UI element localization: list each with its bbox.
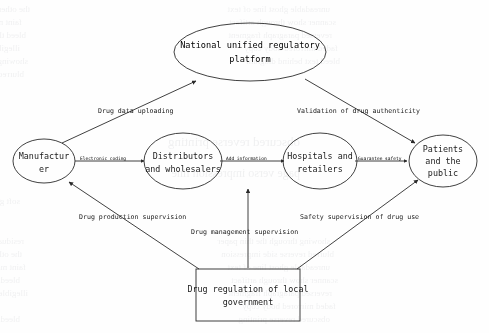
node-manufacturer[interactable]: Manufactur er: [13, 139, 75, 183]
node-national-platform[interactable]: National unified regulatory platform: [174, 23, 326, 81]
node-label-local-government-line2: government: [223, 297, 273, 307]
node-label-distributors-line1: Distributors: [153, 151, 214, 161]
edge-government-to-manufacturer: Drug production supervision: [69, 182, 199, 269]
edge-government-to-patients: Safety supervision of drug use: [297, 180, 419, 269]
edge-manufacturer-to-distributors: Electronic coding: [75, 156, 144, 161]
node-patients[interactable]: Patients and the public: [409, 135, 477, 187]
edge-label-add-information: Add information: [226, 156, 267, 161]
edge-government-to-distributors: Drug management supervision: [191, 189, 298, 268]
node-label-manufacturer-line1: Manufactur: [19, 151, 69, 161]
edge-distributors-to-hospitals: Add information: [220, 156, 284, 161]
node-label-distributors-line2: and wholesalers: [145, 164, 221, 174]
node-label-national-platform-line2: platform: [229, 54, 270, 64]
node-label-patients-line3: public: [428, 168, 458, 178]
flow-diagram: Drug data uploading Validation of drug a…: [0, 0, 489, 333]
node-label-local-government-line1: Drug regulation of local: [187, 284, 308, 294]
node-label-hospitals-line1: Hospitals and: [287, 151, 353, 161]
node-label-national-platform-line1: National unified regulatory: [180, 40, 320, 50]
node-distributors[interactable]: Distributors and wholesalers: [144, 133, 222, 189]
edge-hospitals-to-patients: Guarantee safety: [355, 156, 407, 161]
edge-label-validation-of-drug-authenticity: Validation of drug authenticity: [297, 107, 420, 115]
edge-label-drug-production-supervision: Drug production supervision: [79, 213, 186, 221]
node-label-hospitals-line2: retailers: [297, 164, 342, 174]
diagram-page: the other side of the scanned page faint…: [0, 0, 489, 333]
edge-label-drug-management-supervision: Drug management supervision: [191, 228, 298, 236]
edge-label-drug-data-uploading: Drug data uploading: [98, 107, 173, 115]
node-hospitals[interactable]: Hospitals and retailers: [283, 133, 357, 189]
edge-label-safety-supervision-of-drug-use: Safety supervision of drug use: [300, 213, 419, 221]
node-label-patients-line2: and the: [425, 156, 460, 166]
node-local-government[interactable]: Drug regulation of local government: [187, 269, 308, 321]
edge-label-guarantee-safety: Guarantee safety: [358, 156, 402, 161]
node-label-manufacturer-line2: er: [39, 164, 49, 174]
edge-label-electronic-coding: Electronic coding: [80, 156, 126, 161]
node-label-patients-line1: Patients: [423, 144, 463, 154]
